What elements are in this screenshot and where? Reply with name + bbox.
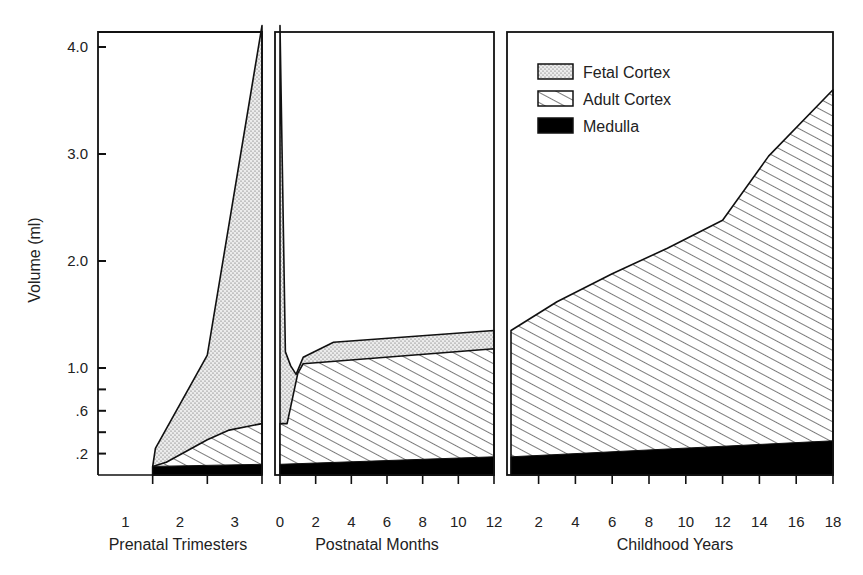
- x-tick-label: 2: [176, 513, 184, 530]
- x-tick-label: 16: [788, 513, 805, 530]
- panel-childhood-years: 24681012141618Childhood Years: [507, 32, 841, 553]
- x-tick-label: 4: [347, 513, 355, 530]
- panel-prenatal-trimesters: 123Prenatal Trimesters: [98, 26, 262, 553]
- x-tick-label: 12: [714, 513, 731, 530]
- x-tick-label: 8: [645, 513, 653, 530]
- legend-label: Fetal Cortex: [583, 64, 670, 81]
- x-tick-label: 2: [534, 513, 542, 530]
- y-axis-title: Volume (ml): [26, 217, 43, 302]
- x-axis-title: Postnatal Months: [315, 536, 439, 553]
- x-tick-label: 12: [486, 513, 503, 530]
- legend-swatch-hatch: [538, 91, 573, 106]
- y-axis: 4.03.02.01.0.6.2: [67, 38, 106, 462]
- x-tick-label: 10: [450, 513, 467, 530]
- x-tick-label: 8: [418, 513, 426, 530]
- x-tick-label: 6: [383, 513, 391, 530]
- adult-cortex-area: [280, 349, 494, 475]
- x-tick-label: 10: [677, 513, 694, 530]
- legend-swatch-dots: [538, 64, 573, 79]
- x-tick-label: 4: [571, 513, 579, 530]
- y-tick-label: .6: [75, 402, 88, 419]
- x-axis-title: Childhood Years: [617, 536, 734, 553]
- y-tick-label: 2.0: [67, 252, 88, 269]
- x-tick-label: 0: [276, 513, 284, 530]
- adult-cortex-area: [511, 90, 833, 475]
- legend-item: Medulla: [538, 118, 639, 135]
- medulla-area: [153, 464, 262, 475]
- legend-label: Medulla: [583, 118, 639, 135]
- adrenal-volume-chart: Volume (ml) 4.03.02.01.0.6.2 123Prenatal…: [0, 0, 863, 575]
- x-axis-title: Prenatal Trimesters: [109, 536, 248, 553]
- legend-item: Adult Cortex: [538, 91, 671, 108]
- y-tick-label: 3.0: [67, 145, 88, 162]
- x-tick-label: 2: [311, 513, 319, 530]
- y-tick-label: 4.0: [67, 38, 88, 55]
- x-tick-label: 1: [121, 513, 129, 530]
- y-tick-label: .2: [75, 445, 88, 462]
- x-tick-label: 6: [608, 513, 616, 530]
- x-tick-label: 18: [825, 513, 842, 530]
- y-tick-label: 1.0: [67, 359, 88, 376]
- legend-label: Adult Cortex: [583, 91, 671, 108]
- legend-item: Fetal Cortex: [538, 64, 670, 81]
- legend: Fetal CortexAdult CortexMedulla: [538, 64, 671, 135]
- legend-swatch-solid: [538, 118, 573, 133]
- panel-postnatal-months: 024681012Postnatal Months: [275, 26, 502, 553]
- fetal-cortex-area: [153, 26, 262, 475]
- x-tick-label: 3: [230, 513, 238, 530]
- x-tick-label: 14: [751, 513, 768, 530]
